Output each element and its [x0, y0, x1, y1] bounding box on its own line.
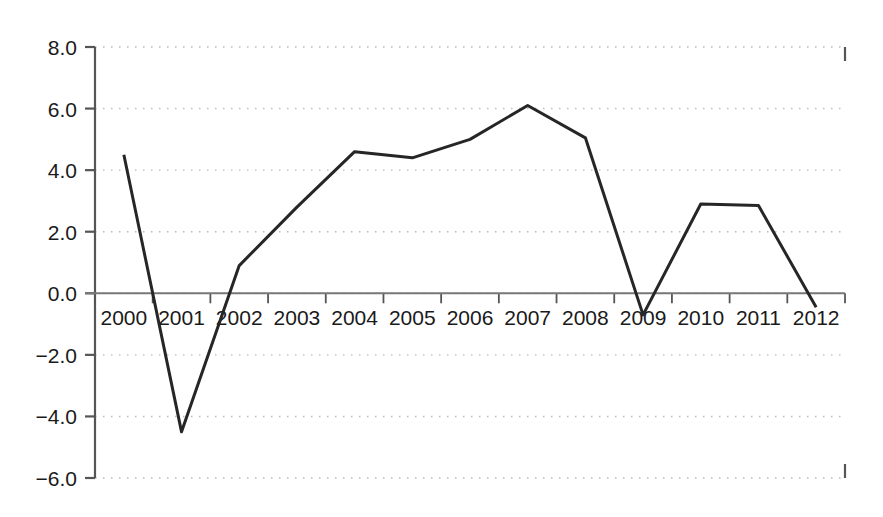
- x-axis-tick-label: 2005: [389, 306, 436, 329]
- y-axis-tick-label: −2.0: [36, 344, 77, 367]
- x-axis-tick-label: 2012: [793, 306, 840, 329]
- x-axis-tick-label: 2010: [677, 306, 724, 329]
- x-axis-tick-labels: 2000200120022003200420052006200720082009…: [100, 306, 839, 329]
- x-axis-ticks: [95, 293, 845, 303]
- y-axis-tick-label: 4.0: [48, 159, 77, 182]
- y-axis-ticks: [85, 47, 95, 478]
- y-axis-tick-label: 6.0: [48, 98, 77, 121]
- y-axis-tick-label: 2.0: [48, 221, 77, 244]
- axis-lines: [95, 47, 845, 478]
- x-axis-tick-label: 2004: [331, 306, 378, 329]
- line-chart: 8.06.04.02.00.0−2.0−4.0−6.0 200020012002…: [0, 0, 883, 517]
- series-line-0: [124, 105, 816, 431]
- x-axis-tick-label: 2001: [158, 306, 205, 329]
- x-axis-tick-label: 2009: [620, 306, 667, 329]
- x-axis-tick-label: 2008: [562, 306, 609, 329]
- y-axis-tick-label: 0.0: [48, 282, 77, 305]
- grid-lines: [95, 47, 845, 478]
- data-series-line: [124, 105, 816, 431]
- x-axis-tick-label: 2003: [274, 306, 321, 329]
- x-axis-tick-label: 2000: [100, 306, 147, 329]
- chart-container: 8.06.04.02.00.0−2.0−4.0−6.0 200020012002…: [0, 0, 883, 517]
- y-axis-tick-label: −6.0: [36, 467, 77, 490]
- y-axis-tick-labels: 8.06.04.02.00.0−2.0−4.0−6.0: [36, 36, 77, 490]
- y-axis-tick-label: 8.0: [48, 36, 77, 59]
- x-axis-tick-label: 2006: [447, 306, 494, 329]
- x-axis-tick-label: 2007: [504, 306, 551, 329]
- y-axis-tick-label: −4.0: [36, 405, 77, 428]
- x-axis-tick-label: 2011: [736, 306, 781, 329]
